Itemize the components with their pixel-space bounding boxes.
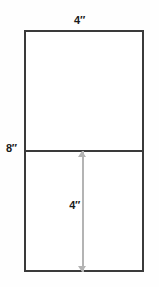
top-width-label: 4″ xyxy=(0,14,159,26)
left-height-label: 8″ xyxy=(6,142,17,154)
inner-half-height-label: 4″ xyxy=(64,199,80,211)
arrow-down-icon xyxy=(78,266,86,272)
arrow-up-icon xyxy=(78,151,86,157)
vertical-dimension-line xyxy=(82,151,84,272)
diagram-canvas: 4″ 8″ 4″ xyxy=(0,0,159,287)
